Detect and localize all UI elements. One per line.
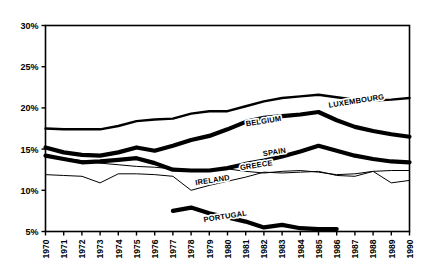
x-tick-label: 1973	[95, 239, 105, 258]
x-tick-label: 1976	[150, 239, 160, 258]
y-tick-label: 20%	[20, 103, 38, 113]
x-tick-label: 1985	[314, 239, 324, 258]
y-tick-label: 30%	[20, 21, 38, 31]
x-tick-label: 1971	[59, 239, 69, 258]
x-tick-label: 1980	[223, 239, 233, 258]
x-tick-label: 1989	[387, 239, 397, 258]
x-tick-label: 1990	[405, 239, 415, 258]
x-tick-label: 1977	[168, 239, 178, 258]
x-tick-label: 1986	[332, 239, 342, 258]
y-tick-label: 15%	[20, 145, 38, 155]
x-tick-label: 1974	[114, 239, 124, 258]
line-chart: 5%10%15%20%25%30% 1970197119721973197419…	[0, 0, 429, 275]
x-tick-label: 1982	[259, 239, 269, 258]
y-axis-ticks: 5%10%15%20%25%30%	[20, 21, 45, 237]
y-tick-label: 25%	[20, 62, 38, 72]
y-tick-label: 10%	[20, 186, 38, 196]
x-axis-ticks: 1970197119721973197419751976197719781979…	[41, 232, 415, 259]
y-tick-label: 5%	[25, 227, 38, 237]
x-tick-label: 1972	[77, 239, 87, 258]
x-tick-label: 1983	[277, 239, 287, 258]
x-tick-label: 1981	[241, 239, 251, 258]
x-tick-label: 1987	[350, 239, 360, 258]
x-tick-label: 1988	[368, 239, 378, 258]
x-tick-label: 1984	[296, 239, 306, 258]
x-tick-label: 1979	[205, 239, 215, 258]
x-tick-label: 1978	[186, 239, 196, 258]
x-tick-label: 1975	[132, 239, 142, 258]
chart-svg: 5%10%15%20%25%30% 1970197119721973197419…	[0, 0, 429, 275]
x-tick-label: 1970	[41, 239, 51, 258]
